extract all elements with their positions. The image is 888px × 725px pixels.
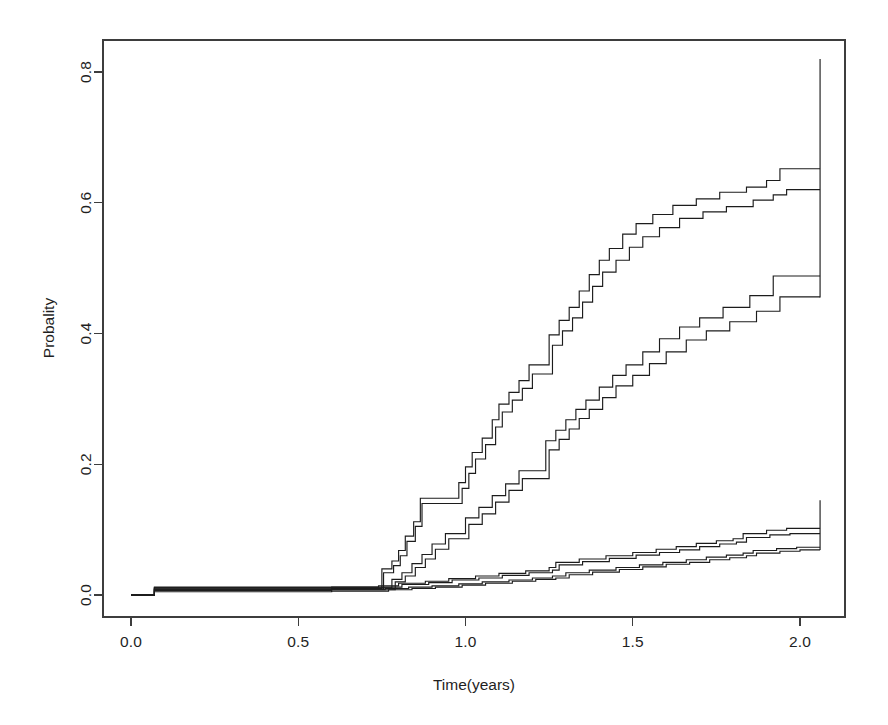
chart-canvas: 0.00.51.01.52.0 0.00.20.40.60.8 Time(yea… — [0, 0, 888, 725]
y-tick-label: 0.4 — [77, 322, 94, 344]
x-axis: 0.00.51.01.52.0 — [120, 617, 811, 650]
x-tick-label: 0.5 — [287, 633, 309, 650]
x-tick-label: 1.0 — [454, 633, 476, 650]
y-tick-label: 0.0 — [77, 584, 94, 606]
x-axis-title: Time(years) — [433, 676, 515, 693]
y-axis-title: Probality — [40, 298, 57, 359]
plot-frame — [103, 40, 845, 617]
x-tick-label: 1.5 — [622, 633, 644, 650]
series-group-A-upper-confidence-limit — [131, 169, 820, 595]
y-tick-label: 0.6 — [77, 192, 94, 214]
y-tick-label: 0.2 — [77, 453, 94, 475]
plot-frame-group — [103, 40, 845, 617]
y-axis: 0.00.20.40.60.8 — [77, 61, 104, 606]
x-tick-label: 2.0 — [789, 633, 811, 650]
x-tick-label: 0.0 — [120, 633, 142, 650]
series-group-B-point-estimate — [131, 297, 820, 595]
curve-series-group — [131, 169, 820, 595]
y-tick-label: 0.8 — [77, 61, 94, 83]
cumulative-incidence-figure: 0.00.51.01.52.0 0.00.20.40.60.8 Time(yea… — [0, 0, 888, 725]
series-group-A-point-estimate — [131, 190, 820, 595]
